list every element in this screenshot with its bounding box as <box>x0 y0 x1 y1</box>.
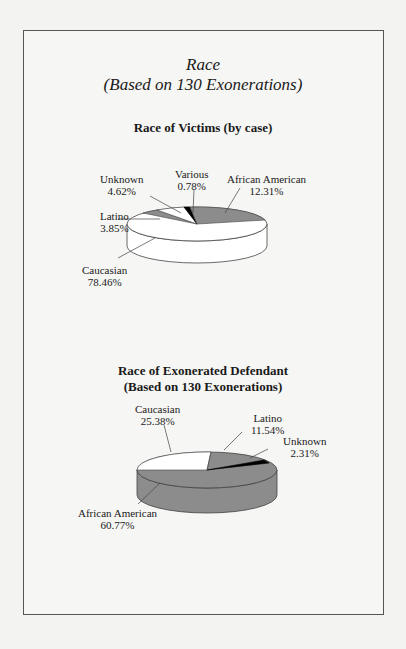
chart2-pie <box>0 0 406 649</box>
chart2-label-african-american: African American 60.77% <box>78 507 157 531</box>
chart2-label-caucasian: Caucasian 25.38% <box>135 403 180 427</box>
chart2-label-unknown: Unknown 2.31% <box>283 435 326 459</box>
chart2-label-latino: Latino 11.54% <box>251 412 285 436</box>
